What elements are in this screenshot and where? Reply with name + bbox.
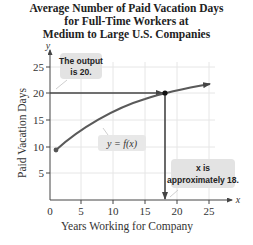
callout-input-line-2: approximately 18. [167,175,239,185]
x-tick-5: 5 [78,205,84,217]
x-tick-25: 25 [204,205,216,217]
function-label-text: y = f(x) [106,138,138,150]
y-axis-letter: y [45,40,51,51]
x-ticks [81,200,209,204]
y-tick-10: 10 [33,141,45,153]
function-label: y = f(x) [98,128,146,151]
y-tick-25: 25 [33,61,45,73]
chart-plot: 25 20 15 10 5 0 5 10 15 20 25 y x Years … [0,0,253,245]
y-tick-15: 15 [33,114,45,126]
y-ticks [46,67,50,173]
callout-input: x is approximately 18. [167,159,239,197]
x-tick-0: 0 [47,205,53,217]
callout-input-line-1: x is [196,163,210,173]
highlight-point [162,90,167,95]
x-tick-15: 15 [140,205,152,217]
y-tick-20: 20 [33,87,45,99]
callout-output-line-1: The output [59,56,103,66]
y-tick-5: 5 [39,167,45,179]
x-tick-10: 10 [108,205,120,217]
x-axis-title: Years Working for Company [61,220,193,233]
curve-start-point [54,148,59,153]
x-axis-letter: x [235,194,241,205]
callout-output-line-2: is 20. [70,67,91,77]
x-tick-20: 20 [172,205,184,217]
callout-output: The output is 20. [56,53,103,89]
y-axis-title: Paid Vacation Days [16,88,29,178]
